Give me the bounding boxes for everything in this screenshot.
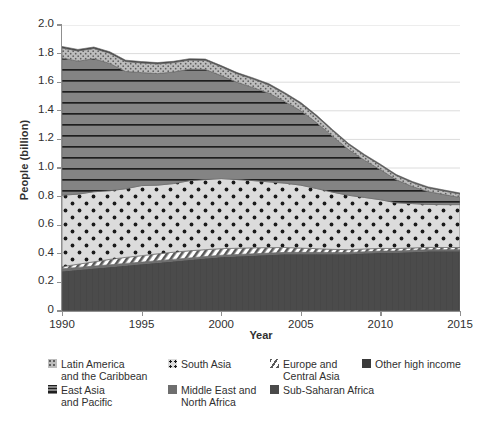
y-tick-label: 0.6 <box>38 217 54 229</box>
x-axis-title: Year <box>62 329 460 341</box>
y-tick-mark <box>57 225 62 226</box>
y-tick-mark <box>57 110 62 111</box>
legend-item-label: East Asia and Pacific <box>61 384 112 409</box>
y-tick-mark <box>57 139 62 140</box>
y-tick-mark <box>57 253 62 254</box>
legend-item[interactable]: South Asia <box>168 358 231 370</box>
x-tick-mark <box>62 311 63 316</box>
y-tick-label: 2.0 <box>38 17 54 29</box>
y-tick-label: 0.8 <box>38 189 54 201</box>
legend-item-label: Europe and Central Asia <box>283 358 340 383</box>
y-axis-title: People (billion) <box>10 0 38 320</box>
legend-item[interactable]: Sub-Saharan Africa <box>270 384 374 396</box>
legend-item-label: South Asia <box>181 358 231 370</box>
x-tick-mark <box>460 311 461 316</box>
y-tick-mark <box>57 53 62 54</box>
y-tick-mark <box>57 24 62 25</box>
legend-item-label: Other high income <box>375 358 461 370</box>
legend-item[interactable]: Europe and Central Asia <box>270 358 340 383</box>
y-tick-label: 1.2 <box>38 131 54 143</box>
y-tick-label: 1.8 <box>38 46 54 58</box>
x-axis-title-text: Year <box>249 329 272 341</box>
stacked-area-svg <box>62 25 460 311</box>
y-tick-label: 1.4 <box>38 103 54 115</box>
legend-item[interactable]: Latin America and the Caribbean <box>48 358 147 383</box>
legend-item[interactable]: Middle East and North Africa <box>168 384 256 409</box>
x-tick-mark <box>301 311 302 316</box>
y-tick-mark <box>57 167 62 168</box>
y-tick-label: 0.4 <box>38 246 54 258</box>
x-tick-mark <box>380 311 381 316</box>
y-tick-mark <box>57 196 62 197</box>
legend-swatch-east-asia-pacific <box>48 385 57 394</box>
legend-item-label: Middle East and North Africa <box>181 384 256 409</box>
legend-swatch-latin-america <box>48 359 57 368</box>
y-tick-label: 0.2 <box>38 274 54 286</box>
legend-swatch-sub-saharan-africa <box>270 385 279 394</box>
legend-swatch-other-high-income <box>362 359 371 368</box>
legend-item-label: Latin America and the Caribbean <box>61 358 147 383</box>
chart-legend: Latin America and the CaribbeanSouth Asi… <box>0 356 494 428</box>
y-axis-title-text: People (billion) <box>18 120 30 200</box>
legend-item[interactable]: Other high income <box>362 358 461 370</box>
legend-swatch-middle-east-north-africa <box>168 385 177 394</box>
y-tick-label: 0 <box>48 303 54 315</box>
y-tick-label: 1.6 <box>38 74 54 86</box>
x-tick-mark <box>142 311 143 316</box>
plot-area <box>62 25 460 311</box>
legend-swatch-europe-central-asia <box>270 359 279 368</box>
y-tick-label: 1.0 <box>38 160 54 172</box>
y-tick-mark <box>57 282 62 283</box>
y-tick-mark <box>57 82 62 83</box>
x-axis-line <box>61 311 461 312</box>
chart-figure: People (billion) <box>0 0 494 432</box>
legend-item-label: Sub-Saharan Africa <box>283 384 374 396</box>
x-tick-mark <box>221 311 222 316</box>
area-series-group <box>62 46 460 311</box>
legend-item[interactable]: East Asia and Pacific <box>48 384 112 409</box>
legend-swatch-south-asia <box>168 359 177 368</box>
